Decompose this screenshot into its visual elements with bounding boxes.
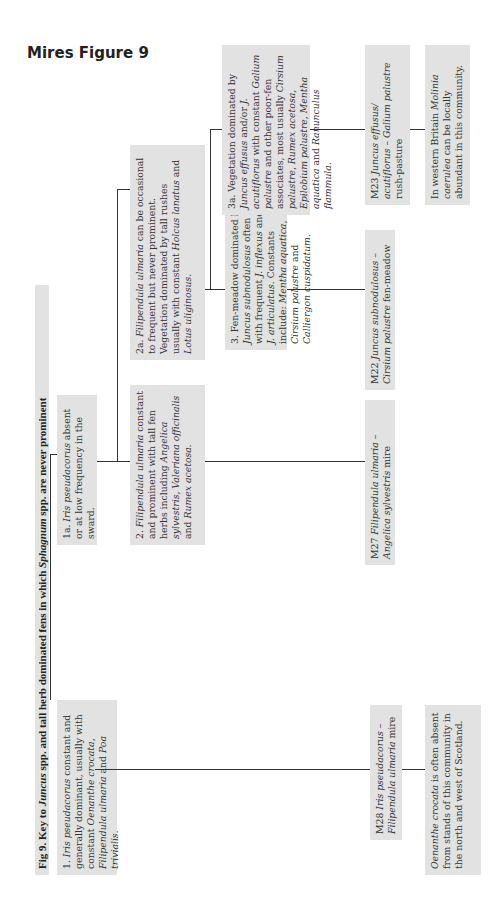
taxon-name: J. articulatus. <box>265 281 276 344</box>
text-segment: with constant <box>250 88 261 158</box>
text-segment: mire <box>381 446 392 471</box>
taxon-name: Holcus lanatus <box>170 180 181 250</box>
key-node-1: 1. Iris pseudacorus constant and general… <box>57 700 117 875</box>
text-segment: M28 <box>374 810 385 834</box>
taxon-name: Filipendula ulmaria <box>134 435 145 528</box>
figure-title: Fig 9. Key to Juncus spp. and tall herb … <box>35 285 49 875</box>
taxon-name: Rumex acetosa. <box>182 444 193 518</box>
text-segment: and <box>310 145 321 168</box>
text-segment: and <box>182 519 193 539</box>
text-segment: M27 <box>369 535 380 559</box>
taxon-name: J. inflexus <box>253 231 264 277</box>
connector-3-m22 <box>287 289 365 290</box>
connector-1-m28 <box>95 769 370 770</box>
text-segment: fen-meadow <box>381 245 392 305</box>
text-segment: 2. <box>134 527 145 539</box>
connector-3-3a-spine <box>210 129 211 290</box>
text-segment: rush-pasture <box>393 139 404 199</box>
community-m22: M22 Juncus subnodulosus – Cirsium palust… <box>365 230 395 390</box>
text-segment: M22 <box>369 360 380 384</box>
taxon-name: Iris pseudacorus <box>61 779 72 858</box>
text-segment: and <box>289 245 300 265</box>
text-segment: 2a. <box>134 337 145 354</box>
connector-1a-stub <box>50 454 57 455</box>
taxon-name: Juncus effusus <box>238 141 249 209</box>
connector-2-2a-spine <box>117 189 118 462</box>
community-m27: M27 Filipendula ulmaria – Angelica sylve… <box>365 400 395 565</box>
text-segment: 3. Fen-meadow dominated by <box>229 205 240 344</box>
community-m28: M28 Iris pseudacorus – Filipendula ulmar… <box>370 705 402 840</box>
connector-3a-stub <box>210 129 222 130</box>
connector-m28-note <box>402 769 425 770</box>
connector-1a-2 <box>97 461 130 462</box>
connector-2a-3 <box>205 289 225 290</box>
taxon-name: Iris pseudacorus <box>61 443 72 522</box>
taxon-name: Oenanthe crocata <box>429 785 440 869</box>
key-node-3a: 3a. Vegetation dominated by Juncus effus… <box>222 45 310 215</box>
text-segment: 3a. Vegetation dominated by <box>226 74 237 209</box>
note-m28: Oenanthe crocata is often absent from st… <box>425 705 481 875</box>
key-node-2: 2. Filipendula ulmaria constant and prom… <box>130 385 205 545</box>
text-segment: and/or <box>238 104 249 141</box>
key-node-2a: 2a. Filipendula ulmaria can be occasiona… <box>130 145 205 360</box>
text-segment: 1. <box>61 857 72 869</box>
connector-2a-stub <box>117 189 130 190</box>
title-genus-juncus: Juncus <box>36 773 48 806</box>
taxon-name: Lotus uliginosus. <box>182 274 193 354</box>
text-segment: M23 <box>369 175 380 199</box>
community-m23: M23 Juncus effusus/ acutiflorus – Galium… <box>365 45 410 205</box>
title-prefix: Fig 9. Key to <box>36 806 48 869</box>
note-m23: In western Britain Molinia caerulea can … <box>425 45 470 205</box>
text-segment: 1a. <box>61 522 72 539</box>
title-middle: spp. and tall herb dominated fens in whi… <box>36 568 48 773</box>
title-genus-sphagnum: Sphagnum <box>36 518 48 568</box>
text-segment: and <box>170 160 181 180</box>
connector-2-m27 <box>205 461 365 462</box>
connector-m23-note <box>410 129 425 130</box>
text-segment: mire <box>386 717 397 742</box>
taxon-name: Juncus subnodulosus <box>241 245 252 344</box>
connector-3a-m23 <box>310 129 365 130</box>
title-suffix: spp. are never prominent <box>36 398 48 519</box>
taxon-name: Filipendula ulmaria <box>134 244 145 337</box>
key-node-1a: 1a. Iris pseudacorus absent or at low fr… <box>57 395 97 545</box>
text-segment: and <box>97 753 108 776</box>
connector-1-1a <box>50 454 51 700</box>
key-diagram: Fig 9. Key to Juncus spp. and tall herb … <box>0 0 502 901</box>
text-segment: In western Britain <box>429 110 440 199</box>
